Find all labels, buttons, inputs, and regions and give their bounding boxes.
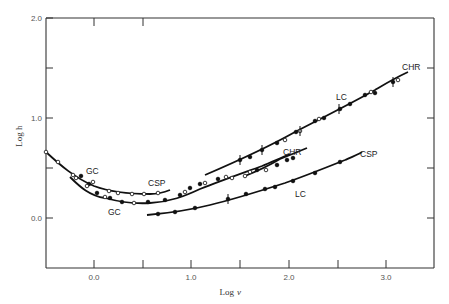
x-tick-label: 1.0 <box>185 273 197 282</box>
label-chr-upper: CHR <box>402 62 420 72</box>
error-marks <box>228 77 393 204</box>
plot-frame <box>46 18 434 268</box>
curve-lc-upper <box>205 72 408 175</box>
x-axis-variable: ν <box>237 287 241 297</box>
label-chr-mid: CHR <box>283 147 301 157</box>
x-tick-label: 0.0 <box>88 273 100 282</box>
label-lc-upper: LC <box>336 92 347 102</box>
y-axis-ticks <box>46 18 434 218</box>
x-axis-title: Log <box>220 287 235 297</box>
y-tick-label: 0.0 <box>31 214 43 223</box>
label-lc-lower: LC <box>295 189 306 199</box>
label-csp-upper: CSP <box>148 178 166 188</box>
y-axis-title: Log h <box>14 125 24 147</box>
label-csp-lower: CSP <box>360 149 378 159</box>
y-tick-label: 1.0 <box>31 114 43 123</box>
x-tick-label: 2.0 <box>283 273 295 282</box>
label-gc-upper: GC <box>86 166 99 176</box>
x-axis-ticks <box>94 18 386 268</box>
curve-lc-lower <box>147 152 362 215</box>
chart: 2.0 1.0 0.0 0.0 1.0 2.0 3.0 Log ν Log h <box>0 0 449 304</box>
y-tick-label: 2.0 <box>31 14 43 23</box>
x-tick-label: 3.0 <box>380 273 392 282</box>
curves <box>46 72 408 215</box>
label-gc-lower: GC <box>108 207 121 217</box>
